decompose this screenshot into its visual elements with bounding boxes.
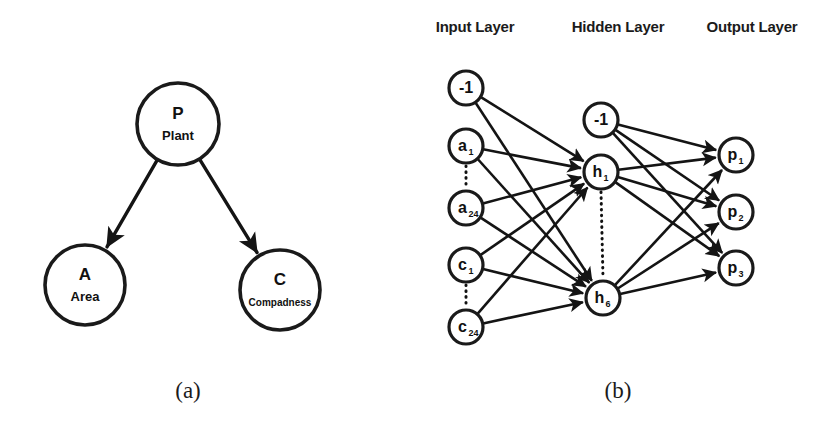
node-a[interactable]: AArea xyxy=(45,245,125,325)
node-subscript-p2: 2 xyxy=(738,213,743,223)
layer-label-input-layer: Input Layer xyxy=(436,18,515,35)
node-label-hid-bias: -1 xyxy=(594,111,608,128)
node-subscript-a1: 1 xyxy=(468,147,473,157)
node-label-in-bias: -1 xyxy=(459,79,473,96)
edge-a1-to-h1 xyxy=(483,149,581,168)
node-label-p2: p xyxy=(728,203,738,220)
node-a24[interactable]: a24 xyxy=(449,191,483,225)
node-circle-c xyxy=(240,250,320,330)
node-c[interactable]: CCompadness xyxy=(240,250,320,330)
node-p3[interactable]: p3 xyxy=(719,251,753,285)
edge-h6-to-p2 xyxy=(618,223,719,288)
edge-p-to-c xyxy=(200,160,257,253)
edge-h1-to-p1 xyxy=(618,158,715,170)
node-label-h1: h xyxy=(593,163,603,180)
ellipsis-h1-h6 xyxy=(601,192,603,278)
node-sublabel-c: Compadness xyxy=(249,297,312,308)
node-label-a24: a xyxy=(458,199,467,216)
node-sublabel-p: Plant xyxy=(162,128,194,143)
node-c1[interactable]: c1 xyxy=(449,248,483,282)
layer-label-output-layer: Output Layer xyxy=(707,18,798,35)
node-subscript-c1: 1 xyxy=(468,266,473,276)
caption-b: (b) xyxy=(605,378,632,403)
panel-b: Input LayerHidden LayerOutput Layer-1a1a… xyxy=(436,18,798,344)
node-p[interactable]: PPlant xyxy=(137,83,219,165)
node-label-a: A xyxy=(79,265,91,284)
node-p1[interactable]: p1 xyxy=(719,138,753,172)
figure-captions: (a)(b) xyxy=(175,378,631,403)
panel-a: PPlantAAreaCCompadness xyxy=(45,83,320,330)
node-circle-p xyxy=(137,83,219,165)
node-circle-a xyxy=(45,245,125,325)
node-hid-bias[interactable]: -1 xyxy=(584,103,618,137)
node-label-c1: c xyxy=(458,256,467,273)
node-label-h6: h xyxy=(595,289,605,306)
node-subscript-c24: 24 xyxy=(468,328,478,338)
node-subscript-p3: 3 xyxy=(738,269,743,279)
layer-label-hidden-layer: Hidden Layer xyxy=(572,18,665,35)
node-label-p: P xyxy=(172,104,183,123)
node-c24[interactable]: c24 xyxy=(449,310,483,344)
node-in-bias[interactable]: -1 xyxy=(449,71,483,105)
node-label-p3: p xyxy=(728,259,738,276)
node-a1[interactable]: a1 xyxy=(449,129,483,163)
edge-c24-to-h6 xyxy=(483,302,583,323)
figure-canvas: PPlantAAreaCCompadness Input LayerHidden… xyxy=(0,0,838,439)
node-subscript-a24: 24 xyxy=(468,209,478,219)
figure-root: PPlantAAreaCCompadness Input LayerHidden… xyxy=(0,0,838,439)
node-subscript-p1: 1 xyxy=(738,156,743,166)
node-label-c24: c xyxy=(458,318,467,335)
node-label-p1: p xyxy=(728,146,738,163)
edge-p-to-a xyxy=(107,160,157,247)
node-h1[interactable]: h1 xyxy=(584,155,618,189)
node-label-a1: a xyxy=(458,137,467,154)
node-subscript-h6: 6 xyxy=(605,299,610,309)
edge-a1-to-h6 xyxy=(478,159,590,283)
edge-h6-to-p1 xyxy=(615,170,722,285)
node-subscript-h1: 1 xyxy=(603,173,608,183)
node-p2[interactable]: p2 xyxy=(719,195,753,229)
caption-a: (a) xyxy=(175,378,201,403)
node-label-c: C xyxy=(274,270,286,289)
edge-hid-bias-to-p1 xyxy=(618,124,716,149)
node-sublabel-a: Area xyxy=(71,289,101,304)
edge-h6-to-p3 xyxy=(620,273,716,295)
edge-a24-to-h6 xyxy=(481,218,586,287)
node-h6[interactable]: h6 xyxy=(586,281,620,315)
